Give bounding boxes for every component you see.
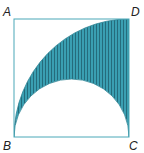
- label-c: C: [129, 139, 138, 153]
- label-a: A: [2, 5, 11, 19]
- shaded-region: [14, 19, 129, 137]
- geometry-diagram: A D B C: [0, 0, 144, 153]
- label-b: B: [3, 139, 11, 153]
- label-d: D: [131, 5, 140, 19]
